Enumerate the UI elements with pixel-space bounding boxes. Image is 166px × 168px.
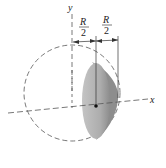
svg-text:2: 2: [81, 27, 86, 38]
arrow-right-1: [90, 39, 96, 43]
sphere-segment-diagram: y x R 2 R 2: [0, 0, 166, 168]
dimension-label-1: R 2: [79, 16, 89, 38]
arrow-left-1: [73, 40, 79, 44]
dimension-label-2: R 2: [102, 14, 112, 36]
arrow-right-2: [112, 38, 118, 42]
x-axis: [8, 99, 148, 113]
arrow-left-2: [96, 39, 102, 43]
svg-text:2: 2: [104, 25, 109, 36]
centroid-dot: [94, 104, 98, 108]
svg-text:R: R: [79, 16, 86, 27]
x-axis-label: x: [149, 94, 155, 105]
svg-text:R: R: [102, 14, 109, 25]
y-axis-label: y: [67, 2, 73, 13]
